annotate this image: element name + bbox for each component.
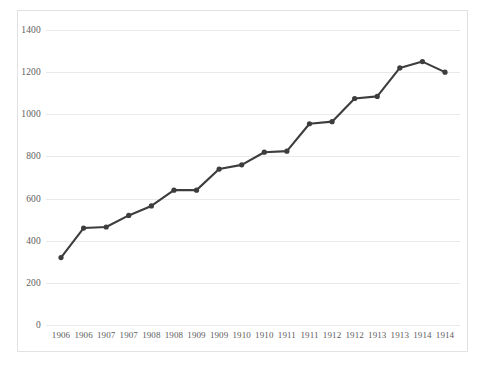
data-point (81, 225, 86, 230)
x-axis-tick-labels: 1906190619071907190819081909190919101910… (46, 330, 460, 346)
x-tick-label: 1914 (413, 330, 431, 340)
data-point (104, 224, 109, 229)
data-point (352, 96, 357, 101)
y-tick-label: 1200 (21, 67, 41, 77)
plot-area (46, 30, 460, 325)
y-tick-label: 600 (26, 194, 41, 204)
x-tick-label: 1912 (323, 330, 341, 340)
x-tick-label: 1906 (52, 330, 70, 340)
y-tick-label: 0 (36, 320, 41, 330)
y-tick-label: 1000 (21, 109, 41, 119)
y-tick-label: 1400 (21, 25, 41, 35)
x-tick-label: 1912 (345, 330, 363, 340)
series-polyline (61, 62, 445, 258)
x-tick-label: 1907 (97, 330, 115, 340)
data-point (442, 70, 447, 75)
y-tick-label: 800 (26, 151, 41, 161)
data-point (171, 188, 176, 193)
data-point (126, 213, 131, 218)
y-tick-label: 400 (26, 236, 41, 246)
data-point (58, 255, 63, 260)
x-tick-label: 1909 (210, 330, 228, 340)
data-point (217, 166, 222, 171)
x-tick-label: 1913 (391, 330, 409, 340)
data-point (194, 188, 199, 193)
x-tick-label: 1910 (233, 330, 251, 340)
x-tick-label: 1908 (142, 330, 160, 340)
data-point (284, 149, 289, 154)
x-tick-label: 1907 (120, 330, 138, 340)
x-tick-label: 1908 (165, 330, 183, 340)
x-tick-label: 1913 (368, 330, 386, 340)
x-tick-label: 1911 (278, 330, 296, 340)
data-point (262, 150, 267, 155)
data-point (420, 59, 425, 64)
y-tick-label: 200 (26, 278, 41, 288)
data-point (329, 119, 334, 124)
data-point (397, 65, 402, 70)
data-point (307, 121, 312, 126)
gridline (46, 325, 460, 326)
x-tick-label: 1910 (255, 330, 273, 340)
data-point (239, 162, 244, 167)
data-point (375, 94, 380, 99)
x-tick-label: 1911 (300, 330, 318, 340)
x-tick-label: 1914 (436, 330, 454, 340)
x-tick-label: 1909 (187, 330, 205, 340)
data-point (149, 203, 154, 208)
line-chart: 0200400600800100012001400 19061906190719… (0, 0, 485, 367)
x-tick-label: 1906 (74, 330, 92, 340)
y-axis-tick-labels: 0200400600800100012001400 (0, 0, 41, 367)
series-line (46, 30, 460, 325)
